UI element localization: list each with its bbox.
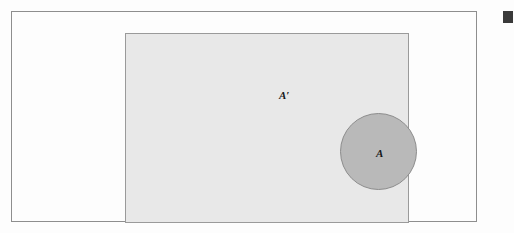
- set-a-circle: A: [340, 113, 417, 190]
- set-a-complement-label: A′: [279, 89, 289, 101]
- figure-border: A′ A: [11, 11, 477, 222]
- figure-canvas: of Addition mutually exclusive events A′…: [0, 0, 514, 233]
- set-a-label: A: [376, 147, 383, 159]
- universal-set-rectangle: A′ A: [125, 33, 409, 223]
- page-margin-block-icon: [503, 11, 513, 23]
